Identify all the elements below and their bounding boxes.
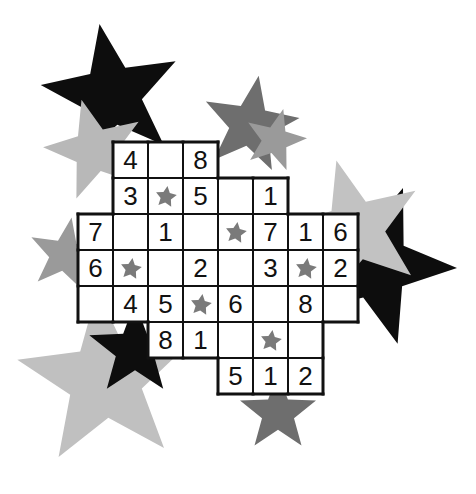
grid-cell-number[interactable]: 2 <box>183 250 218 286</box>
grid-cell-star[interactable] <box>253 322 288 358</box>
grid-cell-empty[interactable] <box>218 178 253 214</box>
cell-value: 8 <box>298 291 312 317</box>
grid-cell-star[interactable] <box>113 250 148 286</box>
cell-value: 6 <box>228 291 242 317</box>
grid-cell-empty[interactable] <box>323 286 358 322</box>
star-icon <box>189 292 213 316</box>
grid-cell-empty[interactable] <box>148 250 183 286</box>
grid-cell-number[interactable]: 4 <box>113 286 148 322</box>
grid-cell-star[interactable] <box>288 250 323 286</box>
grid-cell-empty[interactable] <box>218 250 253 286</box>
grid-cell-number[interactable]: 8 <box>183 142 218 178</box>
cell-value: 2 <box>298 363 312 389</box>
grid-cell-number[interactable]: 6 <box>218 286 253 322</box>
cell-value: 4 <box>123 147 137 173</box>
grid-cell-number[interactable]: 8 <box>148 322 183 358</box>
grid-cell-number[interactable]: 1 <box>253 358 288 394</box>
cell-value: 5 <box>158 291 172 317</box>
grid-cell-number[interactable]: 5 <box>218 358 253 394</box>
cell-value: 4 <box>123 291 137 317</box>
grid-cell-number[interactable]: 7 <box>253 214 288 250</box>
grid-cell-number[interactable]: 1 <box>288 214 323 250</box>
cell-value: 7 <box>263 219 277 245</box>
grid-cell-empty[interactable] <box>113 214 148 250</box>
grid-cell-number[interactable]: 6 <box>323 214 358 250</box>
star-icon <box>119 256 143 280</box>
star-icon <box>224 220 248 244</box>
grid-cell-empty[interactable] <box>288 322 323 358</box>
grid-cell-empty[interactable] <box>78 286 113 322</box>
grid-cell-number[interactable]: 5 <box>183 178 218 214</box>
grid-cell-number[interactable]: 5 <box>148 286 183 322</box>
grid-cell-number[interactable]: 7 <box>78 214 113 250</box>
star-icon <box>294 256 318 280</box>
cell-value: 6 <box>333 219 347 245</box>
grid-cell-number[interactable]: 4 <box>113 142 148 178</box>
grid-cell-number[interactable]: 8 <box>288 286 323 322</box>
star-icon <box>154 184 178 208</box>
cell-value: 8 <box>158 327 172 353</box>
grid-cell-star[interactable] <box>183 286 218 322</box>
cell-value: 2 <box>193 255 207 281</box>
cell-value: 3 <box>263 255 277 281</box>
grid-cell-empty[interactable] <box>183 214 218 250</box>
cell-value: 1 <box>263 183 277 209</box>
cell-value: 1 <box>193 327 207 353</box>
grid-cell-number[interactable]: 3 <box>253 250 288 286</box>
grid-cell-number[interactable]: 3 <box>113 178 148 214</box>
grid-cell-number[interactable]: 1 <box>183 322 218 358</box>
cell-value: 5 <box>228 363 242 389</box>
cell-value: 6 <box>88 255 102 281</box>
grid-cell-star[interactable] <box>148 178 183 214</box>
cell-value: 3 <box>123 183 137 209</box>
grid-cell-number[interactable]: 1 <box>253 178 288 214</box>
grid-cell-empty[interactable] <box>148 142 183 178</box>
cell-value: 1 <box>263 363 277 389</box>
cell-value: 2 <box>333 255 347 281</box>
star-icon <box>259 328 283 352</box>
cell-value: 1 <box>158 219 172 245</box>
grid-cell-number[interactable]: 2 <box>323 250 358 286</box>
cell-value: 7 <box>88 219 102 245</box>
grid-cell-number[interactable]: 2 <box>288 358 323 394</box>
grid-cell-empty[interactable] <box>218 322 253 358</box>
cell-value: 5 <box>193 183 207 209</box>
grid-cell-number[interactable]: 1 <box>148 214 183 250</box>
grid-cell-number[interactable]: 6 <box>78 250 113 286</box>
puzzle-grid: 48351717166232456881512 <box>0 0 476 494</box>
grid-cell-empty[interactable] <box>253 286 288 322</box>
cell-value: 8 <box>193 147 207 173</box>
grid-cell-star[interactable] <box>218 214 253 250</box>
cell-value: 1 <box>298 219 312 245</box>
